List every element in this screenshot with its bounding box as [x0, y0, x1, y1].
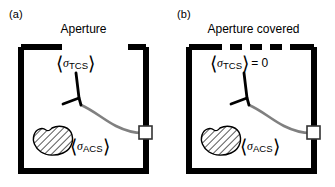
angle-bracket-open-icon: ⟨	[210, 53, 217, 74]
angle-bracket-open-icon: ⟨	[70, 136, 77, 157]
detector-square-b	[307, 126, 320, 139]
panel-a-acs-label: ⟨σACS⟩	[70, 138, 110, 156]
angle-bracket-close-icon: ⟩	[242, 53, 249, 74]
angle-bracket-close-icon: ⟩	[103, 136, 110, 157]
figure-two-panel-aperture-diagram: (a) Aperture	[0, 0, 335, 187]
angle-bracket-close-icon: ⟩	[88, 53, 95, 74]
sigma-subscript: TCS	[223, 60, 242, 71]
sigma-subscript: ACS	[83, 143, 103, 154]
sigma-subscript: TCS	[69, 60, 88, 71]
panel-a-tcs-label: ⟨σTCS⟩	[56, 55, 95, 73]
antenna-branch-b	[231, 73, 249, 105]
angle-bracket-open-icon: ⟨	[56, 53, 63, 74]
panel-a-stage	[0, 0, 167, 187]
panel-b-tcs-label: ⟨σTCS⟩= 0	[210, 55, 268, 73]
tcs-equals-zero: = 0	[251, 56, 268, 70]
panel-a: (a) Aperture	[0, 0, 167, 187]
antenna-branch-a	[63, 73, 81, 105]
ray-trajectory-a	[81, 105, 143, 133]
panel-b-acs-label: ⟨σACS⟩	[240, 138, 280, 156]
panel-b-stage	[168, 0, 335, 187]
detector-square-a	[139, 126, 152, 139]
panel-b-drawing	[168, 0, 335, 187]
angle-bracket-open-icon: ⟨	[240, 136, 247, 157]
angle-bracket-close-icon: ⟩	[273, 136, 280, 157]
ray-trajectory-b	[249, 105, 311, 133]
panel-a-drawing	[0, 0, 167, 187]
sigma-subscript: ACS	[253, 143, 273, 154]
panel-b: (b) Aperture covered	[168, 0, 335, 187]
